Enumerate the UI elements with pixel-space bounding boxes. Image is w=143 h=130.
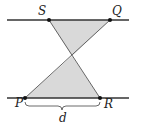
label-S: S [38,4,46,18]
geometry-diagram: S Q P R d [0,0,143,130]
label-d: d [59,111,67,125]
brace-d [25,102,100,110]
label-Q: Q [112,4,122,18]
point-Q [108,18,112,22]
point-R [98,96,102,100]
label-R: R [103,97,113,111]
point-S [47,18,51,22]
point-P [23,96,27,100]
upper-triangle [49,20,110,56]
label-P: P [14,96,24,110]
lower-triangle [25,56,100,98]
